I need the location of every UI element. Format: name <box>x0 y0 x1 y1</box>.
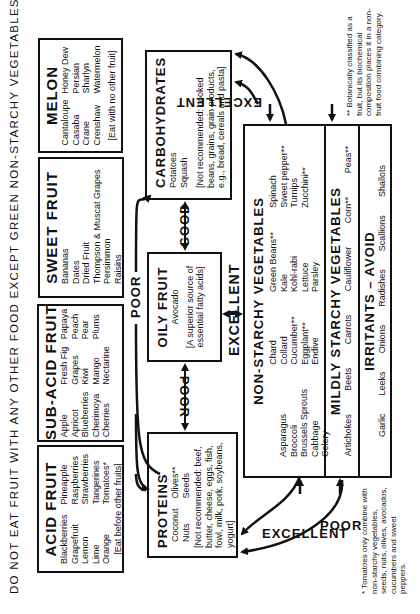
excellent-right-down-a <box>256 81 262 87</box>
label-good: GOOD <box>177 203 192 247</box>
footnote-single-asterisk: * Tomatoes only combine with non-starchy… <box>360 484 408 594</box>
excellent-right-arrow-1 <box>236 54 286 124</box>
label-excellent-right: EXCELLENT <box>176 95 262 110</box>
label-excellent-mid: EXCELLENT <box>226 264 242 356</box>
footnote-double-asterisk: ** Botanically classified as a fruit, bu… <box>345 6 383 116</box>
label-poor-top: POOR <box>128 272 143 322</box>
label-poor-mid: POOR <box>177 376 192 418</box>
excellent-right-veg-head-1 <box>228 84 240 89</box>
label-poor-left: POOR <box>320 518 362 533</box>
poor-top-arrow <box>136 196 160 474</box>
food-combining-chart: DO NOT EAT FRUIT WITH ANY OTHER FOOD EXC… <box>0 0 420 614</box>
